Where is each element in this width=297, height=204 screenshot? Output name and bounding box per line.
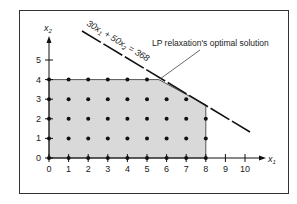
integer-point: [67, 136, 71, 140]
integer-point: [145, 78, 149, 82]
y-tick-label: 3: [36, 94, 41, 104]
y-tick-label: 4: [36, 75, 41, 85]
integer-point: [47, 117, 51, 121]
x-tick-label: 9: [223, 164, 228, 174]
integer-point: [165, 97, 169, 101]
x-tick-label: 8: [203, 164, 208, 174]
integer-point: [145, 97, 149, 101]
x-axis-arrow-icon: [259, 156, 266, 161]
integer-point: [67, 97, 71, 101]
integer-point: [86, 136, 90, 140]
integer-point: [204, 156, 208, 160]
x-tick-label: 3: [105, 164, 110, 174]
constraint-label: 30x1 + 50x2 = 368: [84, 18, 151, 64]
integer-point: [106, 97, 110, 101]
annotation-leader: [160, 50, 200, 79]
integer-point: [125, 136, 129, 140]
integer-point: [47, 78, 51, 82]
x-tick-label: 7: [184, 164, 189, 174]
integer-program-diagram: 012345678910 012345 x1 x2 30x1 + 50x2 = …: [0, 0, 297, 204]
x-axis-label: x1: [267, 154, 276, 165]
integer-point: [106, 117, 110, 121]
x-tick-label: 2: [86, 164, 91, 174]
integer-point: [145, 136, 149, 140]
integer-point: [125, 97, 129, 101]
integer-point: [86, 78, 90, 82]
y-axis-arrow-icon: [47, 36, 52, 43]
y-axis-label: x2: [43, 23, 53, 34]
integer-point: [184, 97, 188, 101]
x-tick-label: 1: [66, 164, 71, 174]
integer-point: [145, 117, 149, 121]
integer-point: [184, 136, 188, 140]
y-tick-label: 5: [36, 55, 41, 65]
integer-point: [145, 156, 149, 160]
x-tick-label: 0: [46, 164, 51, 174]
annotation-label: LP relaxation's optimal solution: [152, 38, 269, 48]
y-tick-label: 0: [36, 153, 41, 163]
integer-point: [106, 156, 110, 160]
integer-point: [125, 156, 129, 160]
integer-point: [106, 136, 110, 140]
integer-point: [86, 97, 90, 101]
integer-point: [47, 136, 51, 140]
integer-point: [184, 117, 188, 121]
integer-point: [86, 156, 90, 160]
integer-point: [165, 117, 169, 121]
integer-point: [204, 136, 208, 140]
integer-point: [204, 117, 208, 121]
x-tick-label: 6: [164, 164, 169, 174]
integer-point: [165, 156, 169, 160]
integer-point: [165, 136, 169, 140]
integer-point: [125, 78, 129, 82]
x-tick-label: 10: [240, 164, 250, 174]
y-tick-label: 2: [36, 114, 41, 124]
integer-point: [106, 78, 110, 82]
integer-point: [86, 117, 90, 121]
integer-point: [67, 156, 71, 160]
integer-point: [184, 156, 188, 160]
x-tick-label: 4: [125, 164, 130, 174]
integer-point: [67, 78, 71, 82]
y-tick-label: 1: [36, 133, 41, 143]
integer-point: [67, 117, 71, 121]
x-tick-label: 5: [144, 164, 149, 174]
integer-point: [47, 97, 51, 101]
integer-point: [125, 117, 129, 121]
integer-point: [47, 156, 51, 160]
